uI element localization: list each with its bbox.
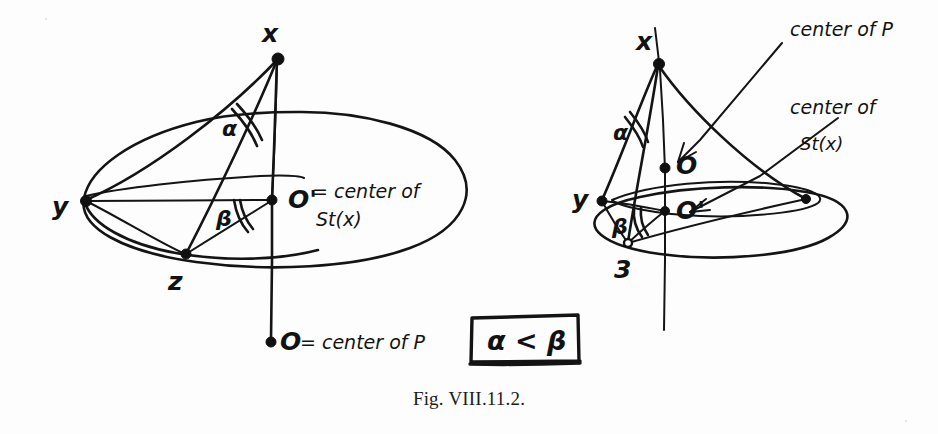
left-note-center-of-P: = center of P: [300, 331, 425, 353]
figure-caption: Fig. VIII.11.2.: [0, 388, 938, 410]
left-vertex-y: [81, 196, 92, 207]
left-label-z: z: [167, 267, 183, 296]
annotation-center-of-p-text: center of P: [790, 18, 894, 40]
right-vertex-Oprime: [661, 207, 670, 216]
right-vertex-x: [654, 59, 665, 70]
left-edge-y-Oprime: [87, 200, 271, 201]
left-edge-x-Oprime: [272, 62, 277, 199]
annotation-center-of-text: center of: [790, 96, 879, 118]
left-edge-y-z: [86, 201, 185, 254]
left-label-beta: β: [215, 206, 232, 231]
annotation-stx-text: St(x): [800, 133, 843, 154]
right-vertex-z: [624, 239, 632, 247]
scan-speck: [45, 18, 47, 20]
left-vertex-Oprime: [267, 195, 277, 205]
right-label-y: y: [572, 185, 590, 214]
right-label-beta: β: [611, 214, 628, 239]
right-edge-x-z: [628, 66, 658, 242]
right-label-x: x: [634, 27, 653, 56]
right-vertex-y: [597, 196, 607, 206]
right-label-alpha: α: [613, 120, 629, 145]
figure-canvas: x y z α β O' = center of St(x) O = cente…: [0, 0, 938, 434]
left-note-stx: St(x): [316, 208, 362, 230]
right-vertex-w: [802, 195, 811, 204]
left-vertex-O: [266, 337, 276, 347]
right-edge-x-y: [602, 66, 657, 200]
right-label-O: O: [676, 151, 697, 180]
left-lower-rim: [85, 203, 318, 259]
left-vertex-x: [272, 53, 284, 65]
left-label-y: y: [52, 192, 70, 221]
left-label-x: x: [260, 19, 279, 48]
right-diagram: [594, 28, 847, 330]
boxed-relation-text: α < β: [487, 325, 566, 356]
figure-page: x y z α β O' = center of St(x) O = cente…: [0, 0, 938, 434]
scan-speck: [905, 420, 907, 422]
left-label-alpha: α: [222, 116, 238, 141]
right-edge-z-w: [628, 199, 806, 243]
left-label-O: O: [280, 327, 301, 356]
left-note-center-of: = center of: [312, 180, 423, 202]
right-label-z: 3: [614, 255, 631, 284]
left-vertex-z: [181, 249, 191, 259]
right-label-Oprime: O': [676, 196, 705, 225]
right-vertex-O: [660, 163, 670, 173]
boxed-relation-underline: [470, 363, 580, 364]
